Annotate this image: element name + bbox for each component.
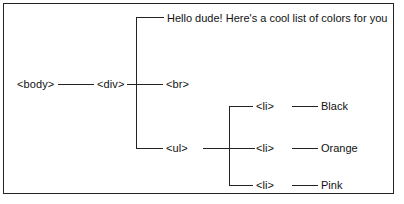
edge-ul-to-li-pink [229, 185, 253, 186]
edge-li-to-pink [292, 185, 318, 186]
node-li-black: <li> [256, 100, 274, 112]
div-children-spine [136, 17, 137, 148]
edge-ul-to-li-orange [229, 148, 253, 149]
node-li-pink: <li> [256, 179, 274, 191]
edge-li-to-black [292, 106, 318, 107]
dom-tree-diagram: <body> <div> <br> <ul> <li> <li> <li> He… [0, 0, 404, 204]
edge-ul-to-li-black [229, 106, 253, 107]
edge-div-to-br [136, 84, 163, 85]
diagram-border [3, 3, 394, 194]
edge-li-to-orange [292, 148, 318, 149]
leaf-black: Black [321, 100, 348, 112]
leaf-orange: Orange [321, 142, 358, 154]
ul-children-spine [229, 106, 230, 185]
node-ul: <ul> [166, 142, 188, 154]
node-br: <br> [166, 78, 189, 90]
text-node-greeting: Hello dude! Here's a cool list of colors… [167, 12, 387, 24]
node-li-orange: <li> [256, 142, 274, 154]
leaf-pink: Pink [321, 179, 342, 191]
edge-div-to-text [136, 17, 164, 18]
edge-body-to-div [58, 84, 94, 85]
node-div: <div> [97, 78, 124, 90]
edge-div-to-ul [136, 148, 163, 149]
node-body: <body> [17, 78, 54, 90]
